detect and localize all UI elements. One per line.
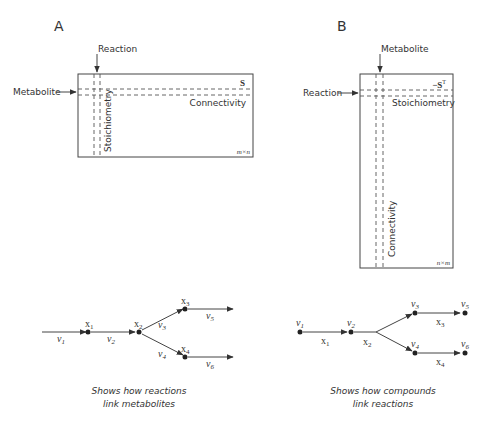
- dims-label: n×m: [437, 259, 450, 267]
- node-v2: [349, 330, 354, 335]
- label-v4: v4: [411, 338, 419, 351]
- label-x4: x4: [436, 356, 445, 369]
- label-v4: v4: [158, 348, 166, 361]
- connectivity-label: Connectivity: [387, 200, 397, 257]
- node-v1: [298, 330, 303, 335]
- caption-b-line2: link reactions: [353, 399, 414, 409]
- label-v2: v2: [347, 317, 355, 330]
- caption-b-line1: Shows how compounds: [330, 386, 436, 396]
- label-x1: x1: [321, 335, 330, 348]
- connectivity-label: Connectivity: [190, 98, 247, 108]
- label-v1: v1: [296, 317, 304, 330]
- label-v2: v2: [107, 333, 115, 346]
- label-v5: v5: [461, 298, 469, 311]
- node-v3: [413, 311, 418, 316]
- panel-a: A Reaction Metabolite S Connectivity Sto…: [13, 18, 253, 409]
- panel-b-letter: B: [337, 18, 347, 34]
- label-x2: x2: [134, 318, 143, 331]
- stoichiometry-label: Stoichiometry: [103, 89, 113, 152]
- network-b: v1 v2 v3 v4 v5 v6 x1 x2 x3 x4: [296, 298, 469, 369]
- label-x1: x1: [85, 318, 94, 331]
- stoichiometry-label: Stoichiometry: [392, 98, 455, 108]
- label-v6: v6: [206, 358, 214, 371]
- network-a: x1 x2 x3 x4 v1 v2 v3 v4 v5 v6: [42, 295, 233, 371]
- node-v6: [463, 351, 468, 356]
- metabolite-label: Metabolite: [381, 44, 429, 54]
- panel-a-letter: A: [54, 18, 64, 34]
- reaction-label: Reaction: [303, 88, 342, 98]
- panel-b: B Metabolite Reaction −ST Stoichiometry …: [296, 18, 469, 409]
- caption-a-line2: link metabolites: [103, 399, 175, 409]
- reaction-label: Reaction: [98, 44, 137, 54]
- label-x4: x4: [181, 343, 190, 356]
- label-v6: v6: [461, 338, 469, 351]
- caption-a-line1: Shows how reactions: [92, 386, 187, 396]
- matrix-neg-st-name: −ST: [432, 79, 446, 90]
- node-v4: [413, 351, 418, 356]
- matrix-s-name: S: [240, 78, 245, 88]
- label-v1: v1: [57, 333, 65, 346]
- node-v5: [463, 311, 468, 316]
- label-x3: x3: [436, 316, 445, 329]
- label-v3: v3: [411, 298, 419, 311]
- dims-label: m×n: [237, 148, 251, 156]
- label-v5: v5: [206, 310, 214, 323]
- label-v3: v3: [158, 319, 166, 332]
- edge-v4: [142, 334, 183, 355]
- label-x2: x2: [363, 336, 372, 349]
- metabolite-label: Metabolite: [13, 87, 61, 97]
- edge-x2-upper: [376, 314, 412, 332]
- figure: A Reaction Metabolite S Connectivity Sto…: [0, 0, 487, 423]
- edge-x2-lower: [376, 332, 412, 351]
- label-x3: x3: [181, 295, 190, 308]
